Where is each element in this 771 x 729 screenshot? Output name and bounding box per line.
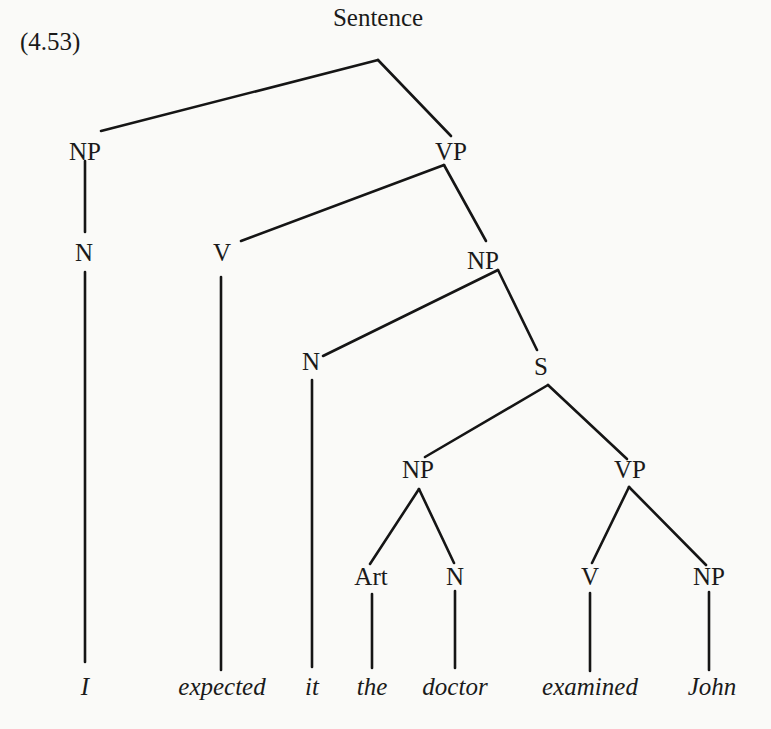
node-n: N (75, 239, 93, 267)
node-art: Art (354, 563, 387, 591)
node-v: V (213, 239, 231, 267)
edge-s-np (425, 385, 548, 457)
node-vp: VP (435, 138, 467, 166)
node-sentence: Sentence (333, 4, 423, 32)
edge-np-n2 (323, 270, 498, 356)
node-v: V (581, 563, 599, 591)
edge-vp-np (444, 165, 486, 241)
word-doctor: doctor (422, 673, 487, 701)
node-np: NP (693, 563, 725, 591)
edge-vp-np4 (629, 487, 706, 565)
node-vp: VP (614, 456, 646, 484)
word-i: I (81, 673, 89, 701)
edge-vp-v2 (592, 487, 629, 563)
word-expected: expected (178, 673, 265, 701)
node-np: NP (467, 247, 499, 275)
node-np: NP (402, 456, 434, 484)
tree-edges (0, 0, 771, 729)
word-the: the (357, 673, 388, 701)
word-it: it (305, 673, 319, 701)
edge-sentence-np (101, 60, 378, 131)
edge-s-vp (548, 385, 627, 459)
edge-np-art (370, 489, 419, 564)
example-number: (4.53) (20, 28, 80, 56)
word-john: John (688, 673, 737, 701)
node-np: NP (69, 138, 101, 166)
edge-np-n3 (419, 489, 454, 563)
node-s: S (534, 353, 548, 381)
word-examined: examined (542, 673, 638, 701)
edge-vp-v (241, 165, 444, 241)
edge-np-s (498, 270, 537, 350)
node-n: N (302, 348, 320, 376)
edge-sentence-vp (378, 60, 451, 136)
node-n: N (446, 563, 464, 591)
